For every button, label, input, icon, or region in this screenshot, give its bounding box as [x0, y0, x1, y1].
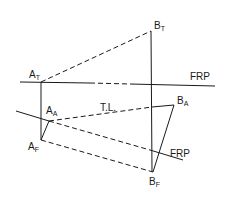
projector-b-aux	[153, 105, 174, 172]
frp-top-line-solid-right	[130, 84, 215, 86]
line-ab-true-length-solid	[152, 105, 174, 107]
frp-top-line-solid-left	[20, 82, 90, 83]
label-b-t: BT	[154, 20, 166, 32]
label-b-a: BA	[177, 95, 189, 107]
projector-a-aux	[41, 121, 49, 140]
frp-aux-line-dashed	[49, 121, 150, 150]
label-frp-aux: FRP	[170, 148, 190, 159]
frp-aux-line-solid-left	[16, 111, 49, 121]
label-a-t: AT	[29, 69, 41, 81]
label-true-length: T.L.	[100, 102, 116, 113]
label-b-f: BF	[149, 176, 160, 188]
diagram-canvas: AT BT AA BA AF BF FRP FRP T.L.	[0, 0, 227, 205]
label-a-f: AF	[28, 141, 39, 153]
line-ab-top-view	[41, 31, 151, 82]
line-ab-front-view	[41, 140, 153, 172]
label-a-a: AA	[46, 105, 58, 117]
frp-top-line-dashed	[90, 83, 130, 84]
label-frp-top: FRP	[190, 71, 210, 82]
